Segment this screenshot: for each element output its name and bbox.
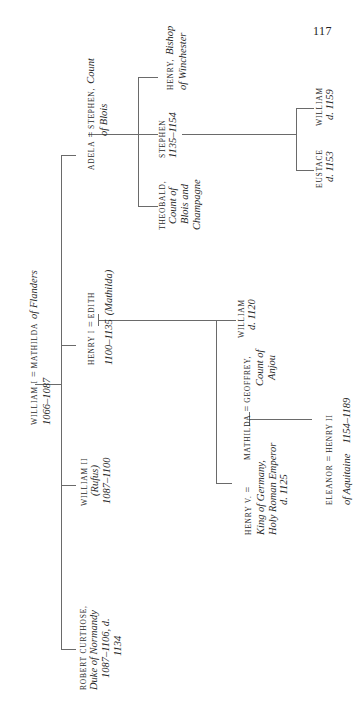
node-henry-i: HENRY I=EDITH 1100–1135 (Mathilda) [80, 270, 116, 365]
tick-matilda [216, 483, 232, 484]
node-william-1120: WILLIAM d. 1120 [238, 299, 258, 338]
tick-william-1159 [296, 108, 314, 109]
node-henry-bishop: HENRY, Bishop of Winchester [159, 26, 189, 90]
node-robert-curthose: ROBERT CURTHOSE, Duke of Normandy 1087–1… [80, 605, 124, 690]
node-adela: ADELA=STEPHEN, Count of Blois [80, 58, 110, 170]
tick-adela [61, 155, 76, 156]
node-stephen: STEPHEN 1135–1154 [159, 112, 179, 158]
node-eustace: EUSTACE d. 1153 [316, 149, 336, 188]
tick-henry-bishop [138, 77, 158, 78]
page-number: 117 [313, 24, 332, 39]
tick-robert [61, 649, 76, 650]
tick-theobald [138, 206, 158, 207]
node-henry-v: HENRY V.= King of Germany, Holy Roman Em… [237, 443, 290, 535]
node-henry-ii: ELEANOR=HENRY II of Aquitaine 1154–1189 [318, 398, 354, 505]
node-william-i: WILLIAM I=MATHILDA of Flanders 1066–1087 [23, 270, 53, 425]
tick-henry1 [61, 345, 76, 346]
main-children-bar [61, 155, 62, 650]
adela-children-bar [138, 77, 139, 207]
tick-stephen [138, 134, 158, 135]
node-william-1159: WILLIAM d. 1159 [316, 87, 336, 126]
stephen-children-bar [296, 108, 297, 170]
stephen-children-line [182, 134, 296, 135]
node-william-ii: WILLIAM II (Rufus) 1087–1100 [81, 458, 113, 506]
tick-eustace [296, 170, 314, 171]
tick-william2 [61, 485, 76, 486]
henry1-children-bar [216, 320, 217, 483]
node-theobald: THEOBALD, Count of Blois and Champagne [159, 179, 203, 230]
